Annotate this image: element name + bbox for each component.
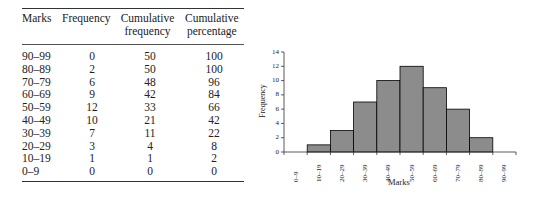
cell-cumulative-percentage: 84 (184, 88, 244, 101)
cell-marks: 90–99 (22, 50, 68, 63)
histogram-bar (307, 145, 330, 152)
histogram-bar (470, 138, 493, 152)
cell-cumulative-percentage: 2 (184, 152, 244, 165)
cell-cumulative-percentage: 22 (184, 127, 244, 140)
y-tick-label: 12 (265, 62, 279, 70)
cell-frequency: 1 (68, 152, 116, 165)
cell-cumulative-frequency: 50 (116, 63, 184, 76)
table-row: 30–3971122 (22, 127, 244, 140)
histogram-bar (354, 102, 377, 152)
cell-frequency: 0 (68, 50, 116, 63)
table-row: 0–9000 (22, 165, 244, 178)
table-row: 40–49102142 (22, 114, 244, 127)
cell-frequency: 10 (68, 114, 116, 127)
table-row: 10–19112 (22, 152, 244, 165)
cell-frequency: 12 (68, 101, 116, 114)
cell-frequency: 6 (68, 76, 116, 89)
header-marks: Marks (22, 9, 57, 40)
y-tick-label: 14 (265, 48, 279, 56)
y-tick-label: 0 (265, 148, 279, 156)
histogram-bar (377, 81, 400, 152)
cell-marks: 50–59 (22, 101, 68, 114)
table-row: 80–89250100 (22, 63, 244, 76)
y-tick-label: 8 (265, 90, 279, 98)
cell-marks: 20–29 (22, 140, 68, 153)
cell-cumulative-frequency: 11 (116, 127, 184, 140)
cell-cumulative-frequency: 42 (116, 88, 184, 101)
x-axis-label: Marks (388, 177, 410, 187)
frequency-table: Marks Frequency Cumulativefrequency Cumu… (22, 8, 244, 182)
cell-cumulative-frequency: 21 (116, 114, 184, 127)
cell-cumulative-frequency: 50 (116, 50, 184, 63)
cell-frequency: 3 (68, 140, 116, 153)
header-cumulative-frequency: Cumulativefrequency (115, 9, 179, 40)
table-row: 20–29348 (22, 140, 244, 153)
table-row: 70–7964896 (22, 76, 244, 89)
x-tick-label: 60–69 (431, 165, 439, 183)
cell-cumulative-percentage: 0 (184, 165, 244, 178)
cell-frequency: 0 (68, 165, 116, 178)
header-frequency: Frequency (57, 9, 115, 40)
cell-marks: 40–49 (22, 114, 68, 127)
cell-marks: 80–89 (22, 63, 68, 76)
x-tick-label: 80–89 (477, 165, 485, 183)
cell-cumulative-percentage: 96 (184, 76, 244, 89)
cell-cumulative-percentage: 100 (184, 63, 244, 76)
y-tick-label: 10 (265, 76, 279, 84)
y-tick-label: 2 (265, 133, 279, 141)
x-tick-label: 90–99 (500, 165, 508, 183)
x-tick-label: 10–19 (315, 165, 323, 183)
x-tick-label: 30–39 (361, 165, 369, 183)
y-tick-label: 4 (265, 119, 279, 127)
table-bottom-rule (22, 181, 244, 182)
cell-marks: 30–39 (22, 127, 68, 140)
table-header-rule (22, 44, 244, 45)
cell-cumulative-percentage: 66 (184, 101, 244, 114)
histogram-bar (330, 131, 353, 152)
cell-cumulative-frequency: 48 (116, 76, 184, 89)
cell-cumulative-percentage: 8 (184, 140, 244, 153)
x-tick-label: 0–9 (292, 172, 300, 183)
cell-marks: 10–19 (22, 152, 68, 165)
y-axis-label: Frequency (258, 84, 267, 118)
cell-frequency: 9 (68, 88, 116, 101)
cell-frequency: 2 (68, 63, 116, 76)
header-cumulative-percentage: Cumulativepercentage (180, 9, 244, 40)
histogram-bar (400, 66, 423, 152)
cell-cumulative-frequency: 33 (116, 101, 184, 114)
histogram-bar (423, 88, 446, 152)
cell-cumulative-frequency: 4 (116, 140, 184, 153)
histogram-bar (446, 109, 469, 152)
y-tick-label: 6 (265, 105, 279, 113)
x-tick-label: 20–29 (338, 165, 346, 183)
cell-marks: 70–79 (22, 76, 68, 89)
cell-cumulative-frequency: 1 (116, 152, 184, 165)
cell-cumulative-frequency: 0 (116, 165, 184, 178)
histogram-chart: 02468101214 0–910–1920–2930–3940–4950–59… (250, 40, 538, 201)
cell-cumulative-percentage: 100 (184, 50, 244, 63)
cell-marks: 0–9 (22, 165, 68, 178)
x-tick-label: 70–79 (454, 165, 462, 183)
table-row: 90–99050100 (22, 50, 244, 63)
cell-frequency: 7 (68, 127, 116, 140)
table-row: 50–59123366 (22, 101, 244, 114)
cell-marks: 60–69 (22, 88, 68, 101)
table-row: 60–6994284 (22, 88, 244, 101)
table-header-row: Marks Frequency Cumulativefrequency Cumu… (22, 9, 244, 40)
cell-cumulative-percentage: 42 (184, 114, 244, 127)
